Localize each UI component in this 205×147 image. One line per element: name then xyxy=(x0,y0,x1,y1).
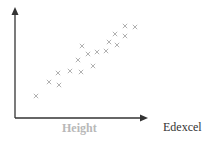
x-marker-icon xyxy=(123,24,127,28)
x-marker-icon xyxy=(95,50,99,54)
x-marker-icon xyxy=(113,32,117,36)
x-marker-icon xyxy=(68,69,72,73)
y-axis-arrow-icon xyxy=(12,7,19,15)
x-marker-icon xyxy=(86,52,90,56)
brand-label: Edexcel xyxy=(163,120,202,135)
x-marker-icon xyxy=(123,34,127,38)
x-marker-icon xyxy=(57,83,61,87)
x-marker-icon xyxy=(80,44,84,48)
x-marker-icon xyxy=(34,94,38,98)
x-marker-icon xyxy=(76,58,80,62)
x-marker-icon xyxy=(133,25,137,29)
x-axis-label: Height xyxy=(62,121,97,136)
x-marker-icon xyxy=(104,49,108,53)
x-marker-icon xyxy=(107,40,111,44)
x-marker-icon xyxy=(47,80,51,84)
x-marker-icon xyxy=(115,43,119,47)
x-marker-icon xyxy=(56,71,60,75)
x-axis-arrow-icon xyxy=(140,115,148,122)
x-marker-icon xyxy=(79,70,83,74)
data-points xyxy=(34,24,137,98)
x-marker-icon xyxy=(91,64,95,68)
